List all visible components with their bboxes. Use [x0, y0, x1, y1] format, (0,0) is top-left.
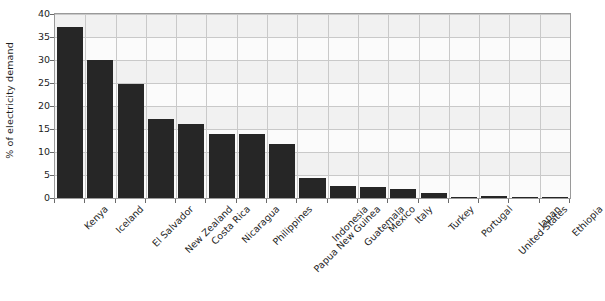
bar: [512, 197, 538, 198]
gridline-vertical: [479, 14, 480, 198]
bar: [360, 187, 386, 198]
bar: [57, 27, 83, 198]
x-tick-mark: [569, 199, 570, 203]
gridline-vertical: [328, 14, 329, 198]
x-tick-mark: [236, 199, 237, 203]
y-tick-label: 30: [28, 55, 50, 65]
x-tick-label: Turkey: [447, 204, 476, 233]
x-tick-mark: [539, 199, 540, 203]
x-axis-labels: KenyaIcelandEl SalvadorNew ZealandCosta …: [54, 204, 571, 299]
y-tick-label: 35: [28, 32, 50, 42]
bar: [451, 197, 477, 198]
x-tick-label: Ethiopia: [570, 204, 604, 238]
gridline-vertical: [237, 14, 238, 198]
gridline-horizontal: [55, 14, 570, 15]
y-tick-label: 0: [28, 193, 50, 203]
bar: [269, 144, 295, 198]
x-tick-mark: [266, 199, 267, 203]
y-tick-label: 15: [28, 124, 50, 134]
gridline-horizontal: [55, 37, 570, 38]
gridline-vertical: [509, 14, 510, 198]
x-tick-mark: [508, 199, 509, 203]
gridline-vertical: [116, 14, 117, 198]
bar: [421, 193, 447, 198]
bar: [178, 124, 204, 198]
plot-area: [54, 13, 571, 199]
x-tick-mark: [205, 199, 206, 203]
x-tick-mark: [357, 199, 358, 203]
x-tick-mark: [327, 199, 328, 203]
bar: [390, 189, 416, 198]
bar: [330, 186, 356, 198]
gridline-vertical: [146, 14, 147, 198]
gridline-vertical: [267, 14, 268, 198]
bar: [87, 60, 113, 198]
bar: [148, 119, 174, 198]
gridline-vertical: [388, 14, 389, 198]
bar: [239, 134, 265, 198]
y-tick-label: 25: [28, 78, 50, 88]
bar: [209, 134, 235, 198]
x-tick-mark: [478, 199, 479, 203]
x-tick-mark: [448, 199, 449, 203]
x-tick-mark: [175, 199, 176, 203]
gridline-vertical: [540, 14, 541, 198]
x-tick-mark: [296, 199, 297, 203]
x-tick-label: Italy: [413, 204, 434, 225]
x-tick-mark: [115, 199, 116, 203]
grid-band: [55, 60, 570, 83]
y-axis-title: % of electricity demand: [0, 0, 18, 200]
bar: [542, 197, 568, 198]
bar: [118, 84, 144, 198]
bar: [481, 196, 507, 198]
y-tick-label: 10: [28, 147, 50, 157]
gridline-vertical: [206, 14, 207, 198]
gridline-vertical: [85, 14, 86, 198]
grid-band: [55, 14, 570, 37]
gridline-vertical: [297, 14, 298, 198]
y-tick-label: 20: [28, 101, 50, 111]
x-tick-label: Portugal: [479, 204, 514, 239]
gridline-vertical: [358, 14, 359, 198]
x-tick-mark: [54, 199, 55, 203]
x-tick-label: Kenya: [83, 204, 110, 231]
x-tick-mark: [145, 199, 146, 203]
gridline-horizontal: [55, 60, 570, 61]
gridline-vertical: [419, 14, 420, 198]
y-tick-label: 40: [28, 9, 50, 19]
x-tick-mark: [84, 199, 85, 203]
x-tick-label: Iceland: [115, 204, 146, 235]
y-axis-title-label: % of electricity demand: [4, 42, 15, 159]
bar: [299, 178, 325, 198]
gridline-vertical: [176, 14, 177, 198]
y-axis-ticks: 0510152025303540: [22, 13, 50, 199]
gridline-vertical: [449, 14, 450, 198]
x-tick-mark: [418, 199, 419, 203]
y-tick-label: 5: [28, 170, 50, 180]
x-tick-mark: [387, 199, 388, 203]
